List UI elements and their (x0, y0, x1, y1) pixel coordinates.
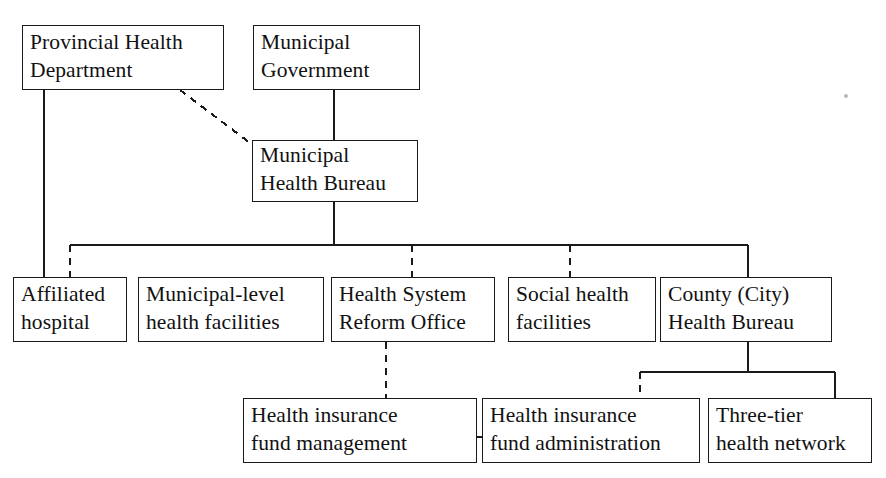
node-label-line1: Social health (516, 281, 648, 309)
node-label-line2: Government (261, 57, 412, 85)
node-municipal-health-bureau[interactable]: Municipal Health Bureau (252, 140, 418, 202)
node-label-line1: Health System (339, 281, 487, 309)
node-county-city-health-bureau[interactable]: County (City) Health Bureau (660, 277, 832, 342)
node-label-line2: health facilities (146, 309, 316, 337)
node-label-line1: County (City) (668, 281, 824, 309)
node-label-line1: Three-tier (716, 402, 864, 430)
node-provincial-health-department[interactable]: Provincial Health Department (22, 25, 224, 90)
node-label-line1: Provincial Health (30, 29, 216, 57)
node-health-insurance-fund-management[interactable]: Health insurance fund management (243, 398, 477, 463)
node-label-line2: Health Bureau (260, 170, 410, 198)
node-municipal-government[interactable]: Municipal Government (253, 25, 420, 90)
node-label-line2: facilities (516, 309, 648, 337)
node-label-line2: Reform Office (339, 309, 487, 337)
node-affiliated-hospital[interactable]: Affiliated hospital (13, 277, 127, 342)
node-label-line1: Health insurance (251, 402, 469, 430)
node-label-line2: fund administration (490, 430, 692, 458)
node-label-line1: Affiliated (21, 281, 119, 309)
node-label-line2: Health Bureau (668, 309, 824, 337)
node-label-line1: Municipal (261, 29, 412, 57)
node-label-line2: hospital (21, 309, 119, 337)
node-label-line1: Municipal (260, 142, 410, 170)
node-label-line2: health network (716, 430, 864, 458)
node-health-system-reform-office[interactable]: Health System Reform Office (331, 277, 495, 342)
scan-artifact-speck (844, 94, 848, 98)
node-social-health-facilities[interactable]: Social health facilities (508, 277, 656, 342)
node-three-tier-health-network[interactable]: Three-tier health network (708, 398, 872, 463)
node-label-line2: fund management (251, 430, 469, 458)
node-label-line1: Municipal-level (146, 281, 316, 309)
node-label-line1: Health insurance (490, 402, 692, 430)
node-health-insurance-fund-administration[interactable]: Health insurance fund administration (482, 398, 700, 463)
org-chart-diagram: Provincial Health Department Municipal G… (0, 0, 886, 478)
node-municipal-level-health-facilities[interactable]: Municipal-level health facilities (138, 277, 324, 342)
node-label-line2: Department (30, 57, 216, 85)
edge-provincial-to-bureau-dashed (180, 90, 254, 146)
